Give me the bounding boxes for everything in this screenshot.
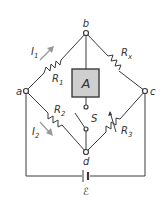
current-arrow-i2-icon: [40, 122, 53, 136]
resistor-r2: [26, 91, 86, 152]
node-d: [84, 150, 89, 155]
node-b-label: b: [83, 18, 89, 29]
current-i2-label: I2: [32, 126, 40, 140]
switch-label: S: [91, 113, 98, 124]
resistor-r2-label: R2: [54, 104, 66, 118]
current-i1-label: I1: [31, 46, 38, 60]
switch-s: [75, 105, 88, 131]
node-b: [84, 31, 89, 36]
node-d-label: d: [83, 156, 90, 167]
ammeter-label: A: [81, 76, 91, 91]
node-a-label: a: [16, 86, 22, 97]
node-a: [24, 89, 29, 94]
battery-emf-label: ℰ: [83, 186, 89, 197]
node-c: [143, 89, 148, 94]
resistor-rx-label: Rx: [121, 47, 133, 61]
ammeter: A: [72, 69, 99, 97]
resistor-r1-label: R1: [52, 73, 63, 87]
current-arrow-i1-icon: [40, 46, 54, 60]
battery: [83, 170, 88, 182]
node-c-label: c: [150, 86, 156, 97]
wheatstone-bridge-diagram: A b a c d I1 R1 Rx R2 I2 R3 S ℰ: [0, 0, 162, 204]
resistor-r3-label: R3: [121, 125, 132, 139]
